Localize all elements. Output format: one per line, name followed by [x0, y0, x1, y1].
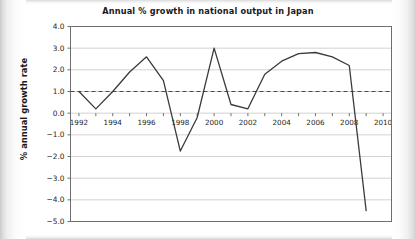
y-tick-label: −3.0	[47, 174, 65, 183]
x-tick-label: 1992	[70, 118, 88, 127]
y-tick-label: 0.0	[53, 109, 65, 118]
y-tick-label: 3.0	[53, 44, 65, 53]
y-tick-label: 4.0	[53, 22, 65, 31]
x-tick-label: 2010	[374, 118, 393, 127]
y-tick-label: 2.0	[53, 65, 65, 74]
x-tick-label: 2000	[205, 118, 224, 127]
x-tick-label: 1994	[104, 118, 123, 127]
y-axis-ticks-group: 4.03.02.01.00.0−1.0−2.0−3.0−4.0−5.0	[47, 22, 71, 226]
y-tick-label: −4.0	[47, 195, 65, 204]
x-tick-label: 2004	[273, 118, 292, 127]
data-line	[79, 48, 366, 211]
y-tick-label: −1.0	[47, 130, 65, 139]
data-line-group	[79, 48, 366, 211]
y-tick-label: −5.0	[47, 217, 65, 226]
line-chart-figure: Annual % growth in national output in Ja…	[0, 0, 416, 239]
plot-area: 4.03.02.01.00.0−1.0−2.0−3.0−4.0−5.0 1992…	[0, 0, 416, 239]
y-tick-label: −2.0	[47, 152, 65, 161]
x-axis-ticks-group: 1992199419961998200020022004200620082010	[70, 113, 393, 127]
scanned-page: Annual % growth in national output in Ja…	[0, 0, 416, 239]
x-tick-label: 2002	[239, 118, 257, 127]
y-tick-label: 1.0	[53, 87, 65, 96]
x-tick-label: 2006	[306, 118, 325, 127]
x-tick-label: 1996	[137, 118, 156, 127]
